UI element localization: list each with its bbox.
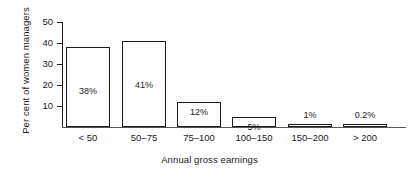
y-tick-label-30: 30 [13,59,53,69]
x-tick-label-4: 100–150 [224,132,284,143]
bar-6 [343,124,387,127]
data-label-4: 5% [232,123,276,132]
x-tick-label-1: < 50 [58,132,118,143]
x-tick-label-2: 50–75 [114,132,174,143]
data-label-3: 12% [177,108,221,117]
data-label-1: 38% [66,87,110,96]
chart-figure: Per cent of women managers 10 20 30 40 5… [0,0,419,178]
data-label-2: 41% [122,81,166,90]
y-tick-label-40: 40 [13,38,53,48]
data-label-5: 1% [288,111,332,120]
y-tick-label-20: 20 [13,80,53,90]
x-axis-title: Annual gross earnings [0,154,419,165]
data-label-6: 0.2% [343,111,387,120]
y-tick-label-10: 10 [13,101,53,111]
bar-5 [288,124,332,127]
y-tick-label-50: 50 [13,17,53,27]
x-tick-label-6: > 200 [335,132,395,143]
x-tick-label-5: 150–200 [280,132,340,143]
x-tick-label-3: 75–100 [169,132,229,143]
